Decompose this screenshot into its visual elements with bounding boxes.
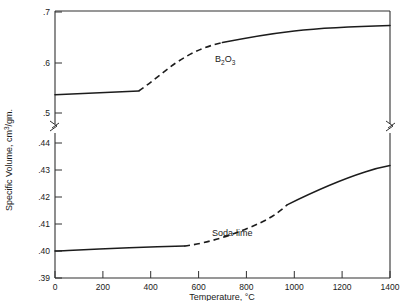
y-tick-label-0.44: .44 — [38, 138, 50, 148]
y-tick-label-0.39: .39 — [38, 273, 50, 283]
series-label-b2o3-sub-3: 3 — [232, 59, 236, 66]
series-soda-lime: Soda-lime — [55, 166, 390, 252]
series-soda-lime-dashed-segment — [184, 205, 287, 246]
series-label-b2o3-mid: O — [225, 54, 232, 64]
y-axis-title: Specific Volume, cm3/gm. — [3, 109, 14, 211]
y-tick-label-0.43: .43 — [38, 165, 50, 175]
x-tick-label-1000: 1000 — [285, 282, 304, 292]
x-tick-label-400: 400 — [144, 282, 158, 292]
y-tick-label-0.41: .41 — [38, 219, 50, 229]
x-axis-title: Temperature, °C — [189, 292, 255, 301]
x-tick-label-200: 200 — [96, 282, 110, 292]
x-tick-label-600: 600 — [192, 282, 206, 292]
y-ticks-lower: .44 .43 .42 .41 .40 .39 — [38, 138, 62, 283]
x-tick-label-1400: 1400 — [381, 282, 400, 292]
axis-break-markers — [50, 121, 395, 131]
y-tick-label-0.42: .42 — [38, 192, 50, 202]
x-tick-label-1200: 1200 — [333, 282, 352, 292]
series-label-b2o3: B2O3 — [215, 54, 236, 66]
x-ticks: 0 200 400 600 800 1000 1200 1400 — [53, 271, 400, 292]
y-axis-title-text: Specific Volume, cm — [4, 130, 14, 211]
series-soda-lime-solid-segment-2 — [287, 166, 390, 205]
series-b2o3-dashed-segment — [139, 43, 223, 91]
y-tick-label-0.40: .40 — [38, 246, 50, 256]
series-b2o3: B2O3 — [55, 26, 390, 95]
chart-figure: .7 .6 .5 .44 .43 .42 .41 .40 .39 0 — [0, 0, 413, 301]
y-tick-label-0.7: .7 — [43, 7, 50, 17]
y-tick-label-0.5: .5 — [43, 108, 50, 118]
series-b2o3-solid-segment-1 — [55, 91, 139, 95]
chart-svg: .7 .6 .5 .44 .43 .42 .41 .40 .39 0 — [0, 0, 413, 301]
y-axis-break-icon-left-upper — [50, 121, 57, 131]
x-tick-label-800: 800 — [239, 282, 253, 292]
y-ticks-upper: .7 .6 .5 — [43, 7, 62, 118]
x-tick-label-0: 0 — [53, 282, 58, 292]
series-soda-lime-solid-segment-1 — [55, 246, 184, 251]
series-label-soda-lime: Soda-lime — [212, 228, 253, 238]
y-tick-label-0.6: .6 — [43, 58, 50, 68]
series-b2o3-solid-segment-2 — [222, 26, 390, 43]
